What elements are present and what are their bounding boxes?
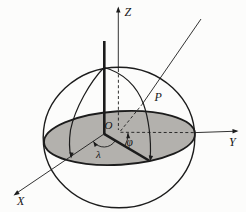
y-axis-arrowhead [232, 129, 238, 134]
z-axis [116, 7, 120, 70]
y-axis-label: Y [229, 135, 237, 149]
diagram-canvas: Z Y X P O λ φ [0, 0, 246, 212]
y-axis-line [195, 131, 237, 132]
longitude-angle-label: λ [95, 148, 101, 160]
spherical-coordinates-figure: Z Y X P O λ φ [0, 0, 246, 212]
origin-label: O [105, 119, 113, 131]
z-axis-arrowhead [116, 7, 120, 13]
x-axis-label: X [16, 194, 25, 208]
op-line-extension [142, 19, 201, 105]
z-axis-label: Z [125, 5, 132, 19]
point-p-label: P [154, 90, 163, 104]
y-axis [195, 129, 239, 134]
latitude-angle-label: φ [127, 136, 134, 149]
labels: Z Y X P O λ φ [16, 5, 237, 208]
